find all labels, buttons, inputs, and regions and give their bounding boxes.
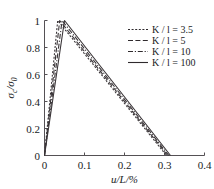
curve-k-l-5: [45, 21, 168, 156]
legend: K / l = 3.5 K / l = 5 K / l = 10 K / l =…: [128, 24, 195, 68]
legend-label-k-l-100: K / l = 100: [152, 57, 195, 68]
x-tick-labels: 0 0.1 0.2 0.3 0.4: [42, 159, 212, 171]
plot-canvas: 0 0.2 0.4 0.6 0.8 1 0 0.1 0.2 0.3 0.4 u/…: [0, 0, 214, 189]
y-tick-label: 0.8: [26, 42, 40, 54]
legend-label-k-l-10: K / l = 10: [152, 46, 190, 57]
y-tick-label: 1: [35, 15, 41, 27]
svg-text:σc/σ0: σc/σ0: [4, 77, 19, 98]
y-tick-label: 0.2: [26, 123, 40, 135]
legend-item-k-l-3-5[interactable]: K / l = 3.5: [128, 24, 193, 35]
y-tick-label: 0: [35, 150, 41, 162]
legend-item-k-l-5[interactable]: K / l = 5: [128, 35, 185, 46]
legend-item-k-l-10[interactable]: K / l = 10: [128, 46, 190, 57]
legend-label-k-l-3-5: K / l = 3.5: [152, 24, 193, 35]
y-tick-labels: 0 0.2 0.4 0.6 0.8 1: [26, 15, 40, 162]
curve-k-l-10: [45, 21, 169, 156]
x-tick-label: 0.1: [78, 159, 92, 171]
legend-item-k-l-100[interactable]: K / l = 100: [128, 57, 195, 68]
x-axis-title: u/L/%: [111, 173, 138, 185]
x-tick-label: 0: [42, 159, 48, 171]
y-axis-title: σc/σ0: [4, 77, 19, 98]
legend-label-k-l-5: K / l = 5: [152, 35, 185, 46]
y-tick-label: 0.4: [26, 96, 40, 108]
curve-k-l-3-5: [45, 21, 167, 156]
y-tick-label: 0.6: [26, 69, 40, 81]
y-title-sub-0: 0: [10, 77, 19, 81]
x-tick-label: 0.2: [118, 159, 132, 171]
x-tick-label: 0.4: [198, 159, 212, 171]
x-tick-label: 0.3: [158, 159, 172, 171]
chart-figure: 0 0.2 0.4 0.6 0.8 1 0 0.1 0.2 0.3 0.4 u/…: [0, 0, 214, 189]
